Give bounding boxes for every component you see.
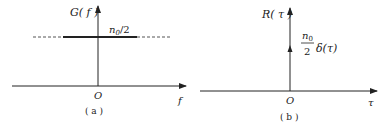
white-noise-diagram: G( f ) n0/2 O f ( a ) R( τ ) n0 2 δ(τ) O… (0, 0, 384, 132)
x-axis-label-a: f (177, 95, 184, 106)
y-axis-label-b: R( τ ) (261, 8, 292, 21)
panel-b: R( τ ) n0 2 δ(τ) O τ ( b ) (200, 8, 377, 122)
level-label: n0/2 (109, 24, 130, 37)
x-axis-label-b: τ (368, 97, 374, 108)
impulse-numerator: n0 (302, 30, 313, 43)
panel-a: G( f ) n0/2 O f ( a ) (12, 6, 186, 116)
y-axis-label-a: G( f ) (70, 6, 98, 19)
impulse-denominator: 2 (304, 46, 310, 57)
origin-label-a: O (94, 90, 102, 101)
impulse-function: δ(τ) (316, 42, 337, 55)
origin-label-b: O (286, 95, 294, 106)
caption-a: ( a ) (85, 106, 103, 116)
caption-b: ( b ) (280, 112, 299, 122)
impulse-arrow-icon (288, 45, 293, 52)
